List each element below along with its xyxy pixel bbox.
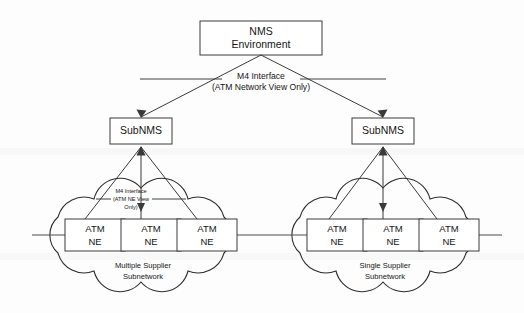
- left-atm-ne-1-line2: NE: [88, 236, 101, 247]
- nms-environment-node[interactable]: NMS Environment: [200, 21, 322, 55]
- m4-network-label-line2: (ATM Network View Only): [212, 82, 310, 92]
- nms-environment-label-line1: NMS: [249, 25, 272, 37]
- network-architecture-diagram: NMS Environment M4 Interface (ATM Networ…: [0, 0, 524, 313]
- arrowhead-right-subnms: [378, 110, 388, 119]
- arrowhead-right-ne-center: [379, 203, 387, 212]
- connector-right-subnms-to-ne1: [329, 147, 383, 219]
- arrowhead-left-ne-center: [137, 203, 145, 212]
- connector-right-subnms-to-ne3: [383, 147, 437, 219]
- left-atm-ne-3-line1: ATM: [197, 223, 216, 234]
- left-atm-ne-2-line1: ATM: [141, 223, 160, 234]
- left-atm-ne-node-2[interactable]: ATM NE: [121, 219, 181, 251]
- diagram-canvas: NMS Environment M4 Interface (ATM Networ…: [0, 0, 524, 313]
- m4-ne-interface-label: M4 Interface (ATM NE View Only): [113, 188, 150, 210]
- scan-wash-lower: [0, 253, 524, 260]
- left-atm-ne-2-line2: NE: [144, 236, 157, 247]
- left-atm-ne-3-line2: NE: [200, 236, 213, 247]
- m4-ne-label-line1: M4 Interface: [115, 188, 146, 194]
- m4-ne-label-line2: (ATM NE View: [113, 196, 150, 202]
- right-atm-ne-node-1[interactable]: ATM NE: [307, 219, 367, 251]
- right-atm-ne-2-line2: NE: [386, 236, 399, 247]
- right-atm-ne-1-line2: NE: [330, 236, 343, 247]
- subnms-right-node[interactable]: SubNMS: [352, 118, 414, 144]
- subnms-right-label: SubNMS: [362, 124, 404, 136]
- right-atm-ne-node-3[interactable]: ATM NE: [419, 219, 479, 251]
- arrowhead-left-subnms: [137, 110, 147, 119]
- right-atm-ne-node-2[interactable]: ATM NE: [363, 219, 423, 251]
- right-subnms-to-ne-connectors: [329, 146, 437, 219]
- left-cloud-caption-line2: Subnetwork: [123, 272, 163, 281]
- right-atm-ne-3-line1: ATM: [439, 223, 458, 234]
- left-atm-ne-node-3[interactable]: ATM NE: [177, 219, 237, 251]
- right-cloud-caption-line2: Subnetwork: [365, 272, 405, 281]
- m4-network-label-line1: M4 Interface: [237, 71, 285, 81]
- m4-ne-label-line3: Only): [124, 204, 138, 210]
- nms-environment-label-line2: Environment: [232, 38, 291, 50]
- right-atm-ne-1-line1: ATM: [327, 223, 346, 234]
- left-cloud-caption: Multiple Supplier Subnetwork: [115, 261, 172, 281]
- right-cloud-caption: Single Supplier Subnetwork: [359, 261, 411, 281]
- connector-left-subnms-to-ne3: [141, 147, 197, 219]
- left-atm-ne-node-1[interactable]: ATM NE: [65, 219, 125, 251]
- right-atm-ne-3-line2: NE: [442, 236, 455, 247]
- right-cloud-caption-line1: Single Supplier: [359, 261, 411, 270]
- left-subnms-to-ne-connectors: [85, 146, 197, 219]
- m4-network-interface-label: M4 Interface (ATM Network View Only): [212, 71, 310, 92]
- left-cloud-caption-line1: Multiple Supplier: [115, 261, 172, 270]
- right-atm-ne-2-line1: ATM: [383, 223, 402, 234]
- scan-wash-upper: [0, 148, 524, 155]
- left-atm-ne-1-line1: ATM: [85, 223, 104, 234]
- subnms-left-node[interactable]: SubNMS: [110, 118, 172, 144]
- subnms-left-label: SubNMS: [120, 124, 162, 136]
